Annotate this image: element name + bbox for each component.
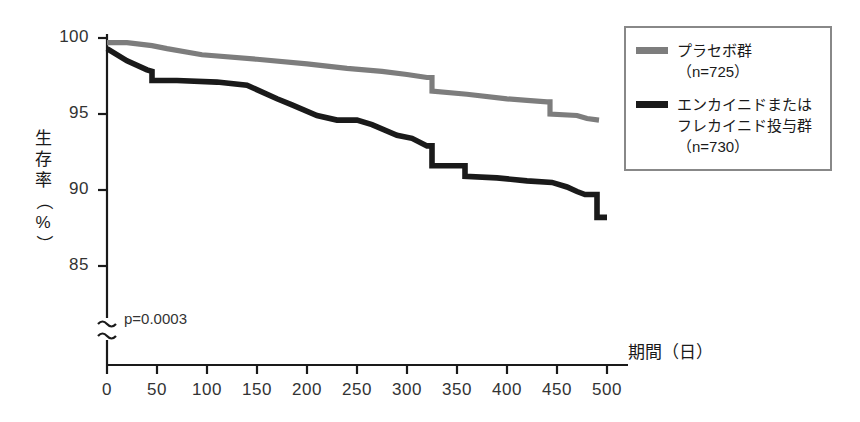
y-axis-title-char-1: 存 [30,149,56,170]
x-tick-label-0: 0 [84,380,130,400]
y-axis-title-char-5: ） [33,231,54,257]
y-axis-title: 生存率（%） [30,128,56,254]
x-tick-label-300: 300 [384,380,430,400]
y-tick-label-100: 100 [43,27,89,47]
x-tick-label-400: 400 [484,380,530,400]
legend-label-placebo: プラセボ群 （n=725） [677,40,752,82]
x-tick-marks [107,365,607,374]
y-tick-label-95: 95 [43,103,89,123]
x-tick-label-200: 200 [284,380,330,400]
x-tick-label-450: 450 [534,380,580,400]
axis-break-marks [98,322,116,339]
y-tick-label-85: 85 [43,255,89,275]
legend-swatch-treatment [636,101,668,108]
legend-box: プラセボ群 （n=725） エンカイニドまたは フレカイニド投与群 （n=730… [624,26,832,171]
series-line-treatment [107,49,607,218]
y-axis-title-char-3: （ [33,189,54,215]
p-value-annotation: p=0.0003 [124,310,187,327]
x-tick-label-150: 150 [234,380,280,400]
legend-entry-placebo: プラセボ群 （n=725） [636,40,820,82]
legend-swatch-placebo [636,47,668,54]
x-tick-label-500: 500 [584,380,630,400]
x-tick-label-100: 100 [184,380,230,400]
y-axis-title-char-0: 生 [30,128,56,149]
x-tick-label-250: 250 [334,380,380,400]
survival-curve-figure: 100959085 050100150200250300350400450500… [0,0,860,422]
x-tick-label-350: 350 [434,380,480,400]
x-axis-title: 期間（日） [628,338,713,363]
legend-entry-treatment: エンカイニドまたは フレカイニド投与群 （n=730） [636,94,820,157]
y-tick-marks [98,38,107,266]
legend-label-treatment: エンカイニドまたは フレカイニド投与群 （n=730） [677,94,812,157]
x-tick-label-50: 50 [134,380,180,400]
data-series-group [107,43,607,218]
